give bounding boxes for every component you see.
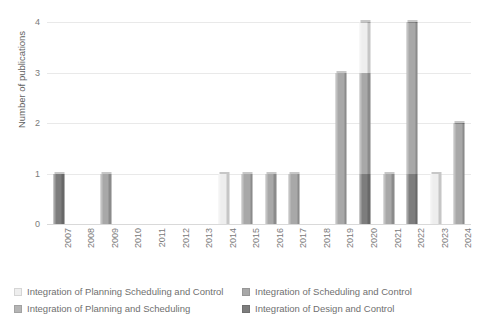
bar-segment[interactable] — [407, 174, 418, 225]
publications-bar-chart: Number of publications 01234 20072008200… — [0, 0, 479, 321]
y-tick-label: 3 — [22, 68, 40, 78]
legend-swatch-icon — [14, 305, 22, 313]
chart-legend: Integration of Planning Scheduling and C… — [14, 283, 466, 317]
x-tick-label: 2020 — [369, 228, 379, 248]
x-tick-label: 2010 — [133, 228, 143, 248]
bar-segment[interactable] — [359, 22, 370, 73]
bar-slot — [141, 22, 165, 224]
x-axis-tick-labels: 2007200820092010201120122013201420152016… — [47, 226, 471, 272]
y-tick-label: 0 — [22, 219, 40, 229]
bar[interactable] — [407, 22, 418, 224]
bar-segment[interactable] — [454, 123, 465, 224]
bar-slot — [188, 22, 212, 224]
bar[interactable] — [218, 174, 229, 225]
bar-slot — [259, 22, 283, 224]
bar[interactable] — [242, 174, 253, 225]
x-tick-label: 2016 — [275, 228, 285, 248]
bar[interactable] — [454, 123, 465, 224]
x-tick-label: 2013 — [204, 228, 214, 248]
bar-segment[interactable] — [430, 174, 441, 225]
legend-item[interactable]: Integration of Scheduling and Control — [242, 286, 470, 297]
bar-slot — [306, 22, 330, 224]
plot-area — [47, 22, 471, 224]
x-tick-label: 2017 — [298, 228, 308, 248]
bar[interactable] — [359, 22, 370, 224]
y-tick-label: 1 — [22, 169, 40, 179]
bar-top-cap — [408, 20, 418, 23]
bar-segment[interactable] — [242, 174, 253, 225]
bar-segment[interactable] — [359, 73, 370, 174]
bar-slot — [71, 22, 95, 224]
bar-slot — [283, 22, 307, 224]
bar-segment[interactable] — [218, 174, 229, 225]
bar-slot — [353, 22, 377, 224]
x-tick-label: 2012 — [181, 228, 191, 248]
bar-segment[interactable] — [53, 174, 64, 225]
legend-swatch-icon — [14, 288, 22, 296]
x-tick-label: 2009 — [110, 228, 120, 248]
bar[interactable] — [100, 174, 111, 225]
bar-top-cap — [219, 172, 229, 175]
bar-segment[interactable] — [100, 174, 111, 225]
bar-segment[interactable] — [289, 174, 300, 225]
bar[interactable] — [430, 174, 441, 225]
bar-top-cap — [266, 172, 276, 175]
legend-item[interactable]: Integration of Design and Control — [242, 303, 470, 314]
bar-slot — [212, 22, 236, 224]
bar-top-cap — [384, 172, 394, 175]
bar[interactable] — [53, 174, 64, 225]
y-tick-label: 4 — [22, 17, 40, 27]
legend-swatch-icon — [242, 305, 250, 313]
y-tick-label: 2 — [22, 118, 40, 128]
legend-item[interactable]: Integration of Planning and Scheduling — [14, 303, 242, 314]
bar-slot — [47, 22, 71, 224]
bar-top-cap — [243, 172, 253, 175]
x-axis-line — [47, 224, 471, 225]
bar-slot — [447, 22, 471, 224]
bar-slot — [118, 22, 142, 224]
bar-top-cap — [54, 172, 64, 175]
bar-top-cap — [360, 20, 370, 23]
bar-segment[interactable] — [407, 22, 418, 174]
bar[interactable] — [265, 174, 276, 225]
bar-top-cap — [337, 71, 347, 74]
legend-item[interactable]: Integration of Planning Scheduling and C… — [14, 286, 242, 297]
x-tick-label: 2011 — [157, 228, 167, 247]
bar-segment[interactable] — [265, 174, 276, 225]
bar-slot — [94, 22, 118, 224]
bar-slot — [330, 22, 354, 224]
x-tick-label: 2019 — [345, 228, 355, 248]
legend-label: Integration of Scheduling and Control — [255, 286, 412, 297]
bar-top-cap — [101, 172, 111, 175]
bar-top-cap — [431, 172, 441, 175]
x-tick-label: 2015 — [251, 228, 261, 248]
bar-slot — [235, 22, 259, 224]
bar-slot — [377, 22, 401, 224]
bar-top-cap — [455, 121, 465, 124]
y-axis-tick-labels: 01234 — [22, 22, 40, 224]
x-tick-label: 2021 — [393, 228, 403, 248]
x-tick-label: 2018 — [322, 228, 332, 248]
bar-segment[interactable] — [336, 73, 347, 225]
bar-top-cap — [290, 172, 300, 175]
bar-slot — [424, 22, 448, 224]
x-tick-label: 2007 — [63, 228, 73, 248]
bar-segment[interactable] — [383, 174, 394, 225]
legend-label: Integration of Planning and Scheduling — [27, 303, 190, 314]
legend-swatch-icon — [242, 288, 250, 296]
bar-segment[interactable] — [359, 174, 370, 225]
legend-label: Integration of Design and Control — [255, 303, 394, 314]
x-tick-label: 2008 — [86, 228, 96, 248]
bar[interactable] — [383, 174, 394, 225]
x-tick-label: 2024 — [463, 228, 473, 248]
x-tick-label: 2014 — [228, 228, 238, 248]
legend-label: Integration of Planning Scheduling and C… — [27, 286, 223, 297]
bar[interactable] — [289, 174, 300, 225]
bar-slot — [165, 22, 189, 224]
bar[interactable] — [336, 73, 347, 225]
x-tick-label: 2022 — [416, 228, 426, 248]
bar-slot — [400, 22, 424, 224]
x-tick-label: 2023 — [440, 228, 450, 248]
